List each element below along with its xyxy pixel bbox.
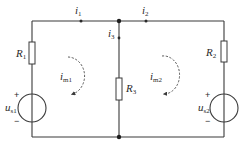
label-r3: R3 [125,82,137,96]
resistor-r1 [29,42,35,64]
label-us1: us1 [5,101,17,115]
us1-minus-sign: − [14,116,19,126]
circuit-diagram: i1 i2 i3 R1 R3 R2 us1 + − us2 + − im1 im… [0,0,246,149]
label-i1: i1 [75,4,82,18]
resistor-r2 [221,41,227,62]
i2-arrow-icon [145,20,148,23]
i3-arrow-icon [118,37,121,40]
us1-plus-sign: + [14,90,19,100]
label-r1: R1 [15,47,27,61]
label-im1: im1 [60,70,73,84]
label-i2: i2 [142,4,149,18]
mesh-arrow-im2-icon [162,56,180,94]
node-bottom [117,135,121,139]
label-r2: R2 [205,46,217,60]
resistor-r3 [116,78,122,100]
label-i3: i3 [108,27,115,41]
label-im2: im2 [150,70,163,84]
us2-plus-sign: + [205,90,210,100]
i1-arrow-icon [80,20,83,23]
us2-minus-sign: − [205,116,210,126]
node-top [117,19,121,23]
label-us2: us2 [198,101,210,115]
